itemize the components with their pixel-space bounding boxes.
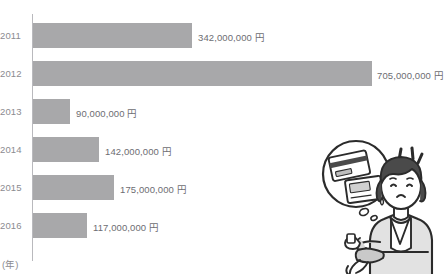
bar-value-2011: 342,000,000 円 [198,30,265,44]
bar-value-2012: 705,000,000 円 [377,68,444,82]
coin-icon [347,234,355,243]
table-row: 2011 342,000,000 円 [0,23,440,61]
table-row: 2012 705,000,000 円 [0,61,440,99]
bar-value-2016: 117,000,000 円 [93,220,159,234]
bar-value-2015: 175,000,000 円 [120,182,187,196]
worried-woman-empty-wallet-illustration [308,132,434,274]
sweat-drop-icon [381,198,384,205]
clipped-header-strip [0,0,440,7]
category-label-2011: 2011 [0,30,27,41]
category-label-2012: 2012 [0,68,27,79]
bar-2013 [33,99,70,124]
bar-2012 [33,61,372,86]
category-label-2016: 2016 [0,220,27,231]
category-label-2015: 2015 [0,182,27,193]
axis-unit-label: (年) [2,257,18,271]
category-label-2013: 2013 [0,106,27,117]
bar-2016 [33,213,87,238]
bar-value-2014: 142,000,000 円 [105,144,172,158]
bar-2011 [33,23,192,48]
bar-2014 [33,137,99,162]
bar-value-2013: 90,000,000 円 [76,106,137,120]
bar-2015 [33,175,114,200]
category-label-2014: 2014 [0,144,27,155]
